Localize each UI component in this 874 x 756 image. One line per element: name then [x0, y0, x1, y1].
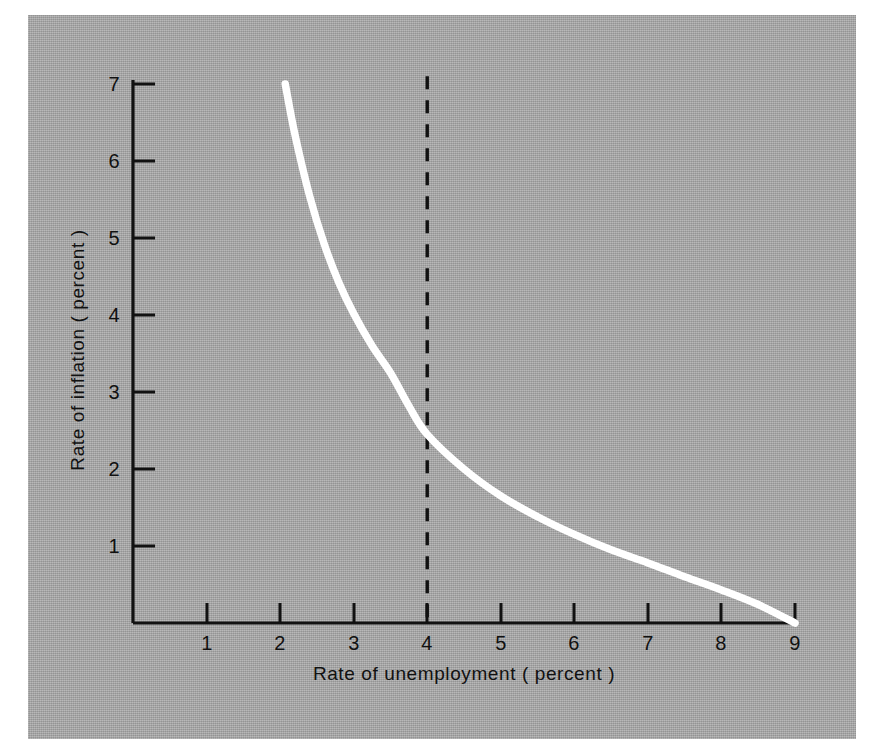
y-axis-title: Rate of inflation ( percent ): [67, 229, 89, 470]
y-tick-label-5: 5: [108, 227, 120, 250]
chart-panel-background: [28, 15, 856, 739]
y-tick-label-7: 7: [108, 73, 120, 96]
x-tick-label-6: 6: [568, 632, 580, 655]
x-tick-label-5: 5: [495, 632, 507, 655]
x-tick-label-1: 1: [201, 632, 213, 655]
x-tick-label-9: 9: [789, 632, 801, 655]
x-tick-label-3: 3: [348, 632, 360, 655]
y-tick-label-2: 2: [108, 458, 120, 481]
x-axis-title: Rate of unemployment ( percent ): [313, 663, 615, 685]
x-tick-label-4: 4: [421, 632, 433, 655]
y-tick-label-1: 1: [108, 535, 120, 558]
y-tick-label-3: 3: [108, 381, 120, 404]
y-tick-label-4: 4: [108, 304, 120, 327]
y-tick-label-6: 6: [108, 150, 120, 173]
x-tick-label-8: 8: [715, 632, 727, 655]
x-tick-label-2: 2: [274, 632, 286, 655]
phillips-curve-figure: 7 6 5 4 3 2 1 1 2 3 4 5 6 7 8 9 Rate of …: [0, 0, 874, 756]
x-tick-label-7: 7: [642, 632, 654, 655]
